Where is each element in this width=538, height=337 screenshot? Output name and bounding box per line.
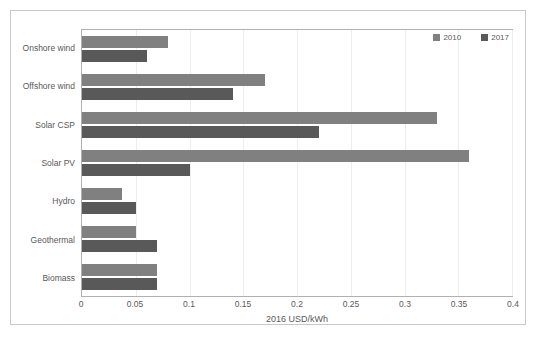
x-tick-label: 0	[79, 299, 84, 309]
x-tick-label: 0.1	[183, 299, 195, 309]
category-label: Offshore wind	[11, 67, 79, 105]
legend-item: 2010	[433, 33, 461, 42]
chart-frame: Onshore windOffshore windSolar CSPSolar …	[10, 10, 526, 325]
category-label: Solar PV	[11, 144, 79, 182]
bar-2010	[82, 264, 157, 276]
bar-2010	[82, 150, 469, 162]
bar-2017	[82, 126, 319, 138]
bar-2017	[82, 164, 190, 176]
bar-2010	[82, 226, 136, 238]
category-label: Biomass	[11, 259, 79, 297]
bar-group	[82, 258, 512, 296]
category-label: Hydro	[11, 182, 79, 220]
bar-2017	[82, 278, 157, 290]
x-tick-label: 0.05	[127, 299, 144, 309]
bar-2017	[82, 240, 157, 252]
x-tick-label: 0.25	[343, 299, 360, 309]
bar-group	[82, 68, 512, 106]
bars-layer	[82, 30, 512, 296]
gridline	[512, 30, 513, 296]
category-label: Solar CSP	[11, 106, 79, 144]
x-tick-label: 0.4	[507, 299, 519, 309]
legend-label: 2017	[491, 33, 509, 42]
bar-2010	[82, 36, 168, 48]
legend-label: 2010	[443, 33, 461, 42]
plot-area	[81, 29, 513, 297]
x-axis-title: 2016 USD/kWh	[81, 314, 513, 324]
bar-2010	[82, 74, 265, 86]
bar-2010	[82, 188, 122, 200]
bar-group	[82, 220, 512, 258]
bar-group	[82, 144, 512, 182]
bar-2017	[82, 50, 147, 62]
bar-group	[82, 182, 512, 220]
chart-legend: 20102017	[433, 33, 509, 42]
bar-group	[82, 106, 512, 144]
bar-2010	[82, 112, 437, 124]
x-tick-label: 0.15	[235, 299, 252, 309]
bar-2017	[82, 202, 136, 214]
category-label: Geothermal	[11, 220, 79, 258]
bar-2017	[82, 88, 233, 100]
x-tick-label: 0.35	[451, 299, 468, 309]
x-tick-label: 0.3	[399, 299, 411, 309]
legend-item: 2017	[481, 33, 509, 42]
legend-swatch-icon	[481, 34, 488, 41]
x-axis-ticks: 00.050.10.150.20.250.30.350.4	[81, 299, 513, 313]
legend-swatch-icon	[433, 34, 440, 41]
x-tick-label: 0.2	[291, 299, 303, 309]
category-label: Onshore wind	[11, 29, 79, 67]
category-axis: Onshore windOffshore windSolar CSPSolar …	[11, 29, 79, 297]
